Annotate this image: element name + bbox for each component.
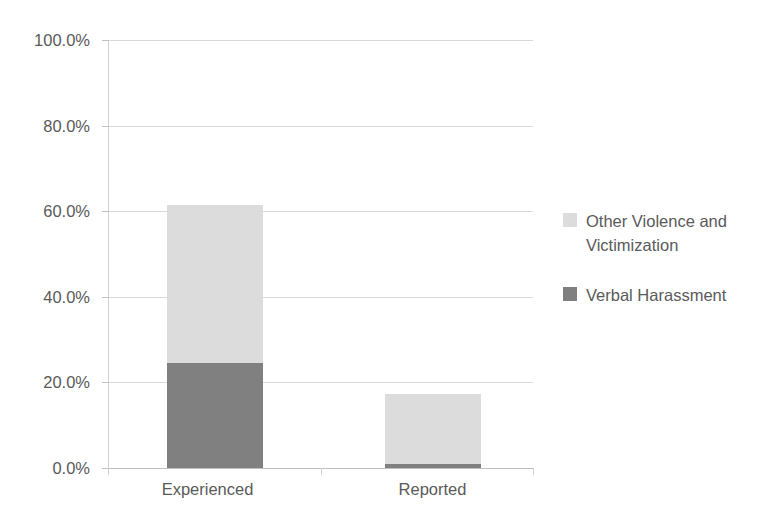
x-axis-label-experienced: Experienced (120, 480, 295, 499)
y-axis-label-0: 0.0% (0, 459, 90, 478)
legend-swatch-verbal-harassment-icon (563, 287, 577, 301)
bar-experienced-verbal-harassment[interactable] (167, 363, 263, 468)
x-tick-left (108, 468, 109, 475)
plot-area (108, 40, 533, 468)
chart-legend: Other Violence and Victimization Verbal … (563, 210, 778, 330)
x-axis-label-reported: Reported (345, 480, 520, 499)
gridline-100 (108, 40, 533, 41)
y-tick-20 (102, 382, 109, 383)
y-tick-60 (102, 211, 109, 212)
y-axis-line (108, 40, 109, 469)
x-tick-right (533, 468, 534, 475)
legend-swatch-other-violence-icon (563, 213, 577, 227)
bar-experienced-other-violence[interactable] (167, 205, 263, 363)
gridline-80 (108, 126, 533, 127)
y-tick-40 (102, 297, 109, 298)
y-axis-label-80: 80.0% (0, 116, 90, 135)
legend-label-verbal-harassment: Verbal Harassment (586, 284, 726, 308)
stacked-bar-chart: 100.0% 80.0% 60.0% 40.0% 20.0% 0.0% Expe… (0, 0, 780, 526)
bar-reported-other-violence[interactable] (385, 394, 481, 464)
y-tick-100 (102, 40, 109, 41)
y-tick-80 (102, 126, 109, 127)
legend-item-other-violence[interactable]: Other Violence and Victimization (563, 210, 778, 258)
y-axis-label-60: 60.0% (0, 202, 90, 221)
y-axis-label-20: 20.0% (0, 373, 90, 392)
y-axis-label-100: 100.0% (0, 31, 90, 50)
x-tick-middle (321, 468, 322, 475)
legend-item-verbal-harassment[interactable]: Verbal Harassment (563, 284, 778, 308)
legend-label-other-violence: Other Violence and Victimization (586, 210, 727, 258)
y-axis-label-40: 40.0% (0, 287, 90, 306)
